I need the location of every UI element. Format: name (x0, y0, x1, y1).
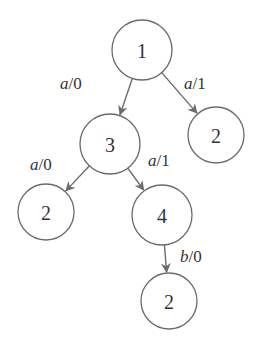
state-label: 3 (105, 134, 115, 156)
edge-output-symbol: /0 (189, 247, 202, 266)
state-node-n2a: 2 (188, 107, 244, 163)
edge-label: a/0 (60, 74, 82, 93)
edge-input-symbol: a (30, 155, 39, 174)
transition-tree-diagram: 132242 a/0a/1a/0a/1b/0 (0, 0, 258, 343)
state-label: 1 (137, 40, 147, 62)
nodes: 132242 (18, 20, 244, 329)
edge-arrow (164, 245, 166, 272)
edge-output-symbol: /0 (69, 74, 82, 93)
state-label: 2 (211, 125, 221, 147)
edge-arrow (128, 168, 144, 190)
edge-output-symbol: /1 (157, 151, 170, 170)
edge-arrow (120, 78, 132, 114)
edge-label: a/1 (148, 151, 170, 170)
edge-output-symbol: /0 (39, 155, 52, 174)
state-label: 2 (164, 291, 174, 313)
edge-input-symbol: a (184, 74, 193, 93)
state-label: 2 (41, 202, 51, 224)
edge-label: a/1 (184, 74, 206, 93)
edge-label: a/0 (30, 155, 52, 174)
state-label: 4 (157, 205, 167, 227)
edge-label: b/0 (180, 247, 202, 266)
edge-input-symbol: a (148, 151, 157, 170)
edge-output-symbol: /1 (193, 74, 206, 93)
edges (66, 73, 197, 272)
edge-arrow (66, 166, 90, 191)
state-node-n2c: 2 (141, 273, 197, 329)
state-node-n4: 4 (132, 185, 192, 245)
edge-input-symbol: a (60, 74, 69, 93)
state-node-n3: 3 (80, 114, 140, 174)
state-node-n2b: 2 (18, 184, 74, 240)
edge-input-symbol: b (180, 247, 189, 266)
state-node-n1: 1 (112, 20, 172, 80)
